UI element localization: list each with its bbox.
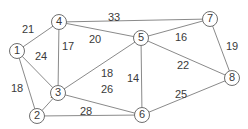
node-label: 4 [56, 15, 62, 27]
edge-weights-layer: 212418173320181226161422192825 [11, 11, 238, 117]
node-8: 8 [225, 71, 240, 86]
node-label: 8 [229, 71, 235, 83]
node-7: 7 [203, 12, 218, 27]
node-label: 7 [207, 12, 213, 24]
edge-weight-label: 14 [127, 72, 139, 84]
edges-layer [17, 19, 232, 116]
edge-weight-label: 26 [101, 83, 113, 95]
node-2: 2 [30, 109, 45, 124]
edge-weight-label: 16 [175, 31, 187, 43]
node-4: 4 [52, 15, 67, 30]
edge-3-6 [58, 93, 142, 115]
edge-weight-label: 24 [35, 50, 47, 62]
node-5: 5 [134, 31, 149, 46]
node-label: 6 [139, 108, 145, 120]
node-3: 3 [51, 86, 66, 101]
edge-4-7 [59, 19, 210, 22]
edge-weight-label: 18 [101, 67, 113, 79]
edge-weight-label: 22 [177, 59, 189, 71]
edge-weight-label: 19 [226, 40, 238, 52]
edge-weight-label: 28 [80, 105, 92, 117]
edge-weight-label: 21 [22, 23, 34, 35]
edge-5-6 [141, 38, 142, 115]
node-label: 1 [14, 44, 20, 56]
edge-4-3 [58, 22, 59, 93]
node-1: 1 [10, 44, 25, 59]
node-label: 3 [55, 86, 61, 98]
node-label: 2 [34, 109, 40, 121]
node-label: 5 [138, 31, 144, 43]
nodes-layer: 12345678 [10, 12, 240, 124]
node-6: 6 [135, 108, 150, 123]
edge-weight-label: 17 [62, 40, 74, 52]
edge-weight-label: 20 [89, 33, 101, 45]
weighted-graph-diagram: 212418173320181226161422192825 12345678 [0, 0, 248, 129]
edge-weight-label: 25 [175, 88, 187, 100]
edge-weight-label: 18 [11, 82, 23, 94]
edge-weight-label: 33 [108, 11, 120, 23]
